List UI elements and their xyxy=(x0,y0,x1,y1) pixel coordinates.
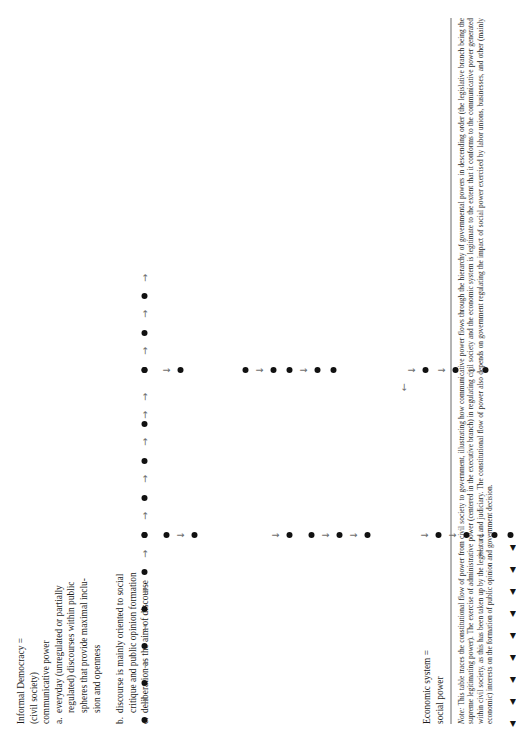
item-a-line-3: spheres that provide maximal inclu- xyxy=(77,492,90,713)
flow-node xyxy=(308,532,314,538)
left-triangle-icon: ◀ xyxy=(508,699,516,705)
item-a: a. everyday (unregulated or partially re… xyxy=(52,492,102,724)
flow-node xyxy=(141,293,147,299)
flow-node xyxy=(507,532,513,538)
item-b-marker: b. xyxy=(113,717,126,724)
left-triangle-icon: ◀ xyxy=(508,589,516,595)
flow-node xyxy=(141,330,147,336)
left-triangle-icon: ◀ xyxy=(508,633,516,639)
flow-node xyxy=(422,367,428,373)
flow-node xyxy=(286,367,292,373)
down-arrow-icon: ↓ xyxy=(298,366,308,374)
flow-node xyxy=(364,532,370,538)
flow-node xyxy=(330,367,336,373)
heading-line-2: (civil society) xyxy=(27,492,40,724)
heading-line-1: Informal Democracy = xyxy=(14,492,27,724)
flow-node xyxy=(141,367,147,373)
flow-node xyxy=(242,367,248,373)
item-c-line-1: deliberation as the aim of discourse xyxy=(138,492,151,713)
left-triangle-icon: ◀ xyxy=(508,545,516,551)
left-triangle-icon: ◀ xyxy=(508,655,516,661)
flow-node xyxy=(286,532,292,538)
flow-node xyxy=(270,367,276,373)
down-arrow-icon: ↓ xyxy=(436,366,446,374)
heading-line-3: communicative power xyxy=(39,492,52,724)
flow-node xyxy=(314,367,320,373)
down-arrow-icon: ↓ xyxy=(406,366,416,374)
flow-node xyxy=(141,458,147,464)
item-a-line-2: regulated) discourses within public xyxy=(64,492,77,713)
right-arrow-icon: → xyxy=(139,274,149,282)
left-triangle-icon: ◀ xyxy=(508,677,516,683)
left-arrow-icon: ← xyxy=(398,383,408,391)
item-c: c. deliberation as the aim of discourse xyxy=(138,492,151,724)
flow-node xyxy=(191,532,197,538)
label-gap-1 xyxy=(102,492,113,724)
right-arrow-icon: → xyxy=(139,310,149,318)
right-arrow-icon: → xyxy=(139,347,149,355)
item-a-line-4: sion and openness xyxy=(90,492,103,713)
down-arrow-icon: ↓ xyxy=(320,531,330,539)
down-arrow-icon: ↓ xyxy=(254,366,264,374)
item-a-line-1: everyday (unregulated or partially xyxy=(52,492,65,713)
flow-node xyxy=(141,421,147,427)
left-triangle-icon: ◀ xyxy=(508,721,516,727)
item-c-marker: c. xyxy=(138,717,151,724)
note-label: Note: xyxy=(456,708,465,724)
down-arrow-icon: ↓ xyxy=(175,531,185,539)
right-arrow-icon: → xyxy=(139,411,149,419)
item-b-line-2: critique and public opinion formation xyxy=(126,492,139,713)
label-column: Informal Democracy = (civil society) com… xyxy=(14,492,151,724)
right-arrow-icon: → xyxy=(139,438,149,446)
down-arrow-icon: ↓ xyxy=(161,366,171,374)
right-arrow-icon: → xyxy=(139,475,149,483)
flow-node xyxy=(177,367,183,373)
flow-node xyxy=(163,532,169,538)
left-triangle-icon: ◀ xyxy=(508,567,516,573)
flow-node xyxy=(336,532,342,538)
note-text: This table traces the constitutional flo… xyxy=(456,18,493,724)
down-arrow-icon: ↓ xyxy=(270,531,280,539)
informal-democracy-heading: Informal Democracy = (civil society) com… xyxy=(14,492,52,724)
item-b-line-1: discourse is mainly oriented to social xyxy=(113,492,126,713)
economic-system-line-1: Economic system = xyxy=(420,492,433,724)
flow-node xyxy=(141,367,147,373)
down-arrow-icon: ↓ xyxy=(348,531,358,539)
economic-system-line-2: social power xyxy=(433,492,446,724)
right-arrow-icon: → xyxy=(139,393,149,401)
item-a-marker: a. xyxy=(52,717,65,724)
economic-system-label: Economic system = social power xyxy=(420,492,445,724)
table-note: Note: This table traces the constitution… xyxy=(450,18,493,724)
left-triangle-icon: ◀ xyxy=(508,611,516,617)
item-b: b. discourse is mainly oriented to socia… xyxy=(113,492,138,724)
